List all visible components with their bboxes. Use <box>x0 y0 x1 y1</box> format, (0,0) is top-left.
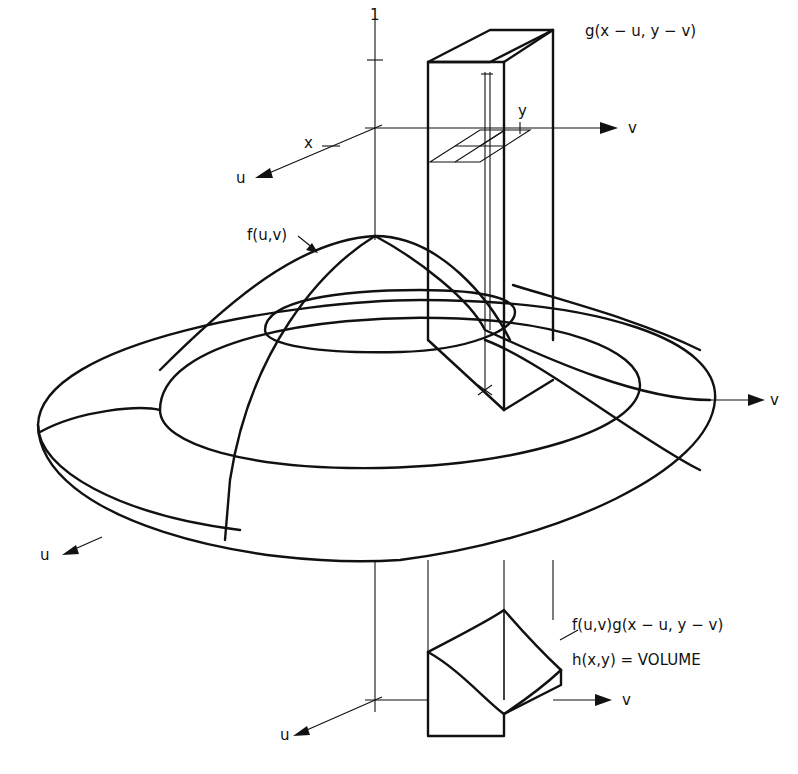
v-label-bottom: v <box>622 691 631 709</box>
u-arrow-middle-icon <box>62 545 79 555</box>
u-label-top: u <box>236 169 246 187</box>
unit-label: 1 <box>370 6 380 24</box>
u-label-bottom: u <box>280 726 290 744</box>
v-arrow-middle-icon <box>748 394 765 406</box>
convolution-diagram: 1 g(x − u, y − v) y v x u f(u,v) v u f(u… <box>0 0 798 774</box>
u-axis-top <box>262 125 382 176</box>
surface-label: f(u,v) <box>247 226 287 244</box>
kernel-label: g(x − u, y − v) <box>585 22 696 40</box>
v-label-middle: v <box>770 391 779 409</box>
v-label-top: v <box>628 119 637 137</box>
bottom-system <box>293 560 612 736</box>
inner-ring <box>265 290 515 352</box>
surface-f <box>38 236 715 561</box>
u-axis-bottom <box>300 697 382 733</box>
u-arrow-top-icon <box>255 168 273 178</box>
x-label: x <box>304 134 313 152</box>
middle-ring <box>160 318 640 468</box>
top-axis-system <box>255 20 618 240</box>
u-arrow-bottom-icon <box>293 726 310 736</box>
y-label: y <box>518 102 527 120</box>
result-label: h(x,y) = VOLUME <box>572 651 701 669</box>
u-label-middle: u <box>40 546 50 564</box>
outer-rim <box>38 300 715 561</box>
product-label: f(u,v)g(x − u, y − v) <box>572 616 723 634</box>
prism-top <box>428 30 553 62</box>
v-arrow-bottom-icon <box>595 694 612 706</box>
v-arrow-top-icon <box>600 122 618 134</box>
